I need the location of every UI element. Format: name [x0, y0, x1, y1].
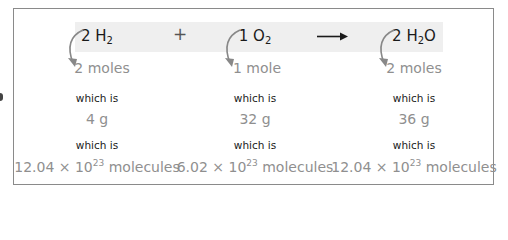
which-is-label: which is — [76, 139, 118, 151]
mass-o2: 32 g — [239, 111, 270, 127]
which-is-label: which is — [234, 139, 276, 151]
moles-h2o: 2 moles — [386, 60, 441, 76]
molecules-h2: 12.04 × 1023 molecules — [14, 159, 180, 175]
moles-h2: 2 moles — [74, 60, 129, 76]
which-is-label: which is — [234, 92, 276, 104]
moles-o2: 1 mole — [233, 60, 281, 76]
molecules-h2o: 12.04 × 1023 molecules — [331, 159, 497, 175]
mass-h2: 4 g — [86, 111, 108, 127]
which-is-label: which is — [393, 92, 435, 104]
molecules-o2: 6.02 × 1023 molecules — [177, 159, 334, 175]
which-is-label: which is — [393, 139, 435, 151]
which-is-label: which is — [76, 92, 118, 104]
mass-h2o: 36 g — [398, 111, 429, 127]
